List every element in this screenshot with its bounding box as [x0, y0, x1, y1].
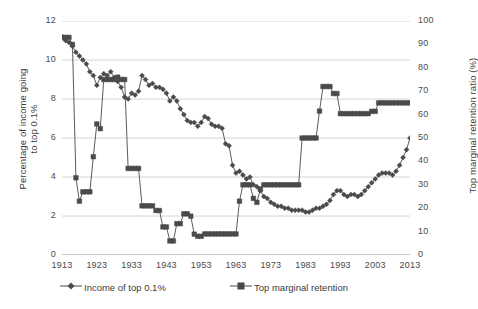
- diamond-marker-icon: [60, 281, 82, 293]
- data-point-marker: [122, 77, 127, 82]
- data-point-marker: [136, 166, 141, 171]
- data-point-marker: [230, 163, 235, 168]
- data-point-marker: [255, 200, 260, 205]
- data-point-marker: [335, 91, 340, 96]
- data-point-marker: [95, 122, 100, 127]
- data-point-marker: [164, 225, 169, 230]
- data-point-marker: [237, 199, 242, 204]
- data-point-marker: [157, 208, 162, 213]
- data-point-marker: [373, 109, 378, 114]
- series-2: [62, 35, 410, 243]
- right-tick-label: 90: [418, 38, 444, 48]
- data-point-marker: [397, 163, 402, 168]
- data-point-marker: [317, 109, 322, 114]
- right-tick-label: 0: [418, 249, 444, 259]
- data-point-marker: [404, 147, 409, 152]
- data-point-marker: [188, 214, 193, 219]
- left-axis-title: Percentage of income going to top 0.1%: [17, 49, 39, 209]
- data-point-marker: [408, 101, 410, 106]
- legend-item-2[interactable]: Top marginal retention: [230, 281, 348, 293]
- data-point-marker: [408, 136, 411, 141]
- series-line: [62, 37, 410, 241]
- data-point-marker: [98, 126, 103, 131]
- legend-item-1[interactable]: Income of top 0.1%: [60, 281, 166, 293]
- left-tick-label: 12: [30, 15, 56, 25]
- right-tick-label: 70: [418, 85, 444, 95]
- right-tick-label: 100: [418, 15, 444, 25]
- left-tick-label: 4: [30, 171, 56, 181]
- chart-legend: Income of top 0.1%Top marginal retention: [0, 281, 472, 299]
- data-point-marker: [314, 136, 319, 141]
- data-point-marker: [67, 35, 72, 40]
- series-line: [62, 37, 410, 213]
- right-tick-label: 50: [418, 132, 444, 142]
- square-marker-icon: [230, 281, 252, 293]
- data-point-marker: [178, 221, 183, 226]
- data-point-marker: [94, 83, 99, 88]
- data-point-marker: [181, 112, 186, 117]
- right-tick-label: 60: [418, 109, 444, 119]
- right-tick-label: 10: [418, 226, 444, 236]
- right-tick-label: 80: [418, 62, 444, 72]
- data-point-marker: [234, 232, 239, 237]
- data-point-marker: [74, 175, 79, 180]
- data-point-marker: [171, 239, 176, 244]
- left-tick-label: 8: [30, 93, 56, 103]
- chart-canvas: [62, 21, 410, 255]
- data-point-marker: [401, 155, 406, 160]
- data-point-marker: [248, 183, 253, 188]
- data-point-marker: [91, 154, 96, 159]
- plot-area: [62, 21, 410, 255]
- data-point-marker: [88, 190, 93, 195]
- legend-label: Income of top 0.1%: [84, 282, 166, 293]
- right-tick-label: 40: [418, 155, 444, 165]
- data-point-marker: [119, 85, 124, 90]
- data-point-marker: [150, 204, 155, 209]
- data-point-marker: [70, 42, 75, 47]
- legend-label: Top marginal retention: [254, 282, 348, 293]
- data-point-marker: [258, 187, 263, 192]
- left-tick-label: 2: [30, 210, 56, 220]
- x-tick-label: 2013: [390, 260, 430, 270]
- data-point-marker: [328, 84, 333, 89]
- right-tick-label: 30: [418, 179, 444, 189]
- data-point-marker: [296, 183, 301, 188]
- data-point-marker: [77, 199, 82, 204]
- left-tick-label: 10: [30, 54, 56, 64]
- series-1: [62, 34, 410, 215]
- left-tick-label: 0: [30, 249, 56, 259]
- left-tick-label: 6: [30, 132, 56, 142]
- right-tick-label: 20: [418, 202, 444, 212]
- right-axis-title: Top marginal retention ratio (%): [467, 46, 478, 206]
- data-point-marker: [178, 106, 183, 111]
